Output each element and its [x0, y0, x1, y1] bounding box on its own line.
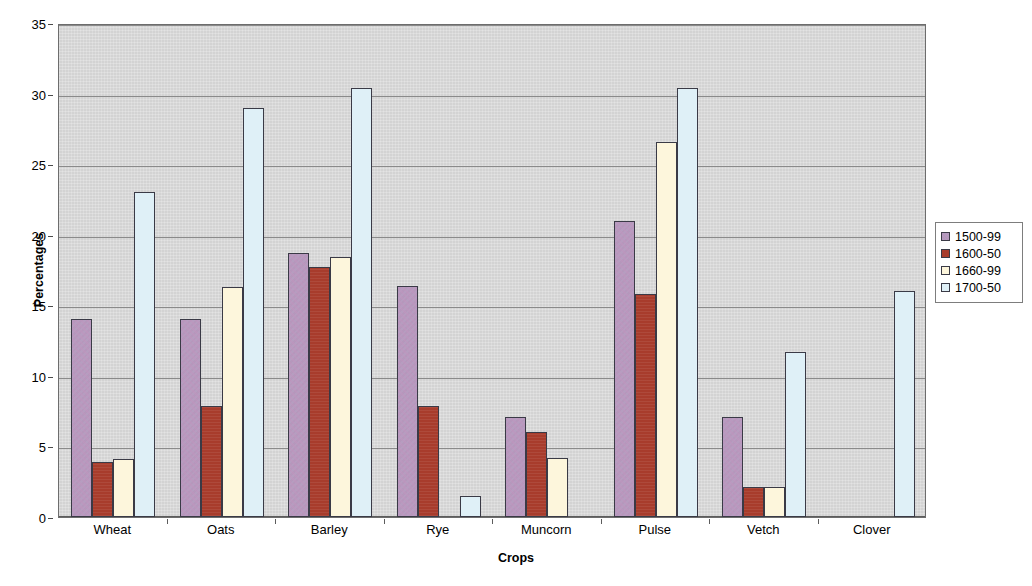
bar: [460, 496, 481, 517]
gridline: [59, 237, 925, 238]
x-axis-tick-label: Muncorn: [521, 522, 572, 537]
x-axis-tick-label: Rye: [426, 522, 449, 537]
bar: [722, 417, 743, 517]
x-axis-tick-mark: [709, 519, 710, 524]
legend-item: 1700-50: [941, 279, 1018, 296]
y-axis-tick-label: 20: [32, 228, 46, 243]
legend-item-label: 1500-99: [955, 230, 1001, 244]
y-axis-tick-mark: [48, 165, 53, 166]
legend-swatch-icon: [941, 249, 950, 258]
x-axis-tick-label: Barley: [311, 522, 348, 537]
gridline: [59, 25, 925, 26]
legend: 1500-991600-501660-991700-50: [935, 222, 1023, 303]
bar: [418, 406, 439, 518]
bar: [397, 286, 418, 517]
legend-swatch-icon: [941, 283, 950, 292]
legend-item-label: 1660-99: [955, 264, 1001, 278]
y-axis-tick-label: 5: [39, 440, 46, 455]
x-axis-tick-mark: [167, 519, 168, 524]
bar: [134, 192, 155, 517]
plot-area: [58, 24, 926, 518]
y-axis-tick-label: 0: [39, 511, 46, 526]
y-axis-tick-mark: [48, 447, 53, 448]
x-axis-tick-mark: [275, 519, 276, 524]
x-axis-tick-label: Clover: [853, 522, 891, 537]
x-axis-tick-label: Pulse: [638, 522, 671, 537]
x-axis-tick-label: Vetch: [747, 522, 780, 537]
gridline: [59, 96, 925, 97]
gridline: [59, 307, 925, 308]
x-axis-tick-label: Wheat: [93, 522, 131, 537]
legend-item-label: 1700-50: [955, 281, 1001, 295]
y-axis: 05101520253035: [0, 0, 58, 586]
legend-swatch-icon: [941, 232, 950, 241]
bar: [547, 458, 568, 517]
y-axis-tick-label: 35: [32, 17, 46, 32]
bar: [243, 108, 264, 517]
x-axis-tick-mark: [492, 519, 493, 524]
y-axis-tick-mark: [48, 95, 53, 96]
legend-item: 1660-99: [941, 262, 1018, 279]
bar: [113, 459, 134, 517]
bar: [180, 319, 201, 517]
bar: [92, 462, 113, 517]
bar: [677, 88, 698, 517]
bar: [656, 142, 677, 517]
bar: [764, 487, 785, 517]
y-axis-tick-mark: [48, 377, 53, 378]
bar: [614, 221, 635, 517]
legend-swatch-icon: [941, 266, 950, 275]
bar: [201, 406, 222, 518]
bar: [309, 267, 330, 517]
y-axis-tick-mark: [48, 306, 53, 307]
legend-item: 1600-50: [941, 245, 1018, 262]
y-axis-tick-mark: [48, 236, 53, 237]
y-axis-tick-label: 10: [32, 369, 46, 384]
x-axis-tick-mark: [384, 519, 385, 524]
bar: [894, 291, 915, 517]
bar: [526, 432, 547, 517]
y-axis-tick-mark: [48, 24, 53, 25]
bar: [330, 257, 351, 517]
y-axis-tick-mark: [48, 518, 53, 519]
bar: [635, 294, 656, 517]
bar: [785, 352, 806, 517]
x-axis-tick-mark: [818, 519, 819, 524]
bar: [71, 319, 92, 517]
legend-item-label: 1600-50: [955, 247, 1001, 261]
x-axis-title: Crops: [0, 551, 1032, 565]
legend-item: 1500-99: [941, 228, 1018, 245]
x-axis-tick-mark: [601, 519, 602, 524]
y-axis-tick-label: 30: [32, 87, 46, 102]
y-axis-tick-label: 25: [32, 158, 46, 173]
bar: [351, 88, 372, 517]
bar: [288, 253, 309, 517]
bar: [505, 417, 526, 517]
gridline: [59, 166, 925, 167]
bar: [222, 287, 243, 517]
x-axis-tick-label: Oats: [207, 522, 234, 537]
bar-chart: Percentages 05101520253035 WheatOatsBarl…: [0, 0, 1032, 586]
y-axis-tick-label: 15: [32, 299, 46, 314]
x-axis-labels: WheatOatsBarleyRyeMuncornPulseVetchClove…: [58, 522, 926, 546]
bar: [743, 487, 764, 517]
